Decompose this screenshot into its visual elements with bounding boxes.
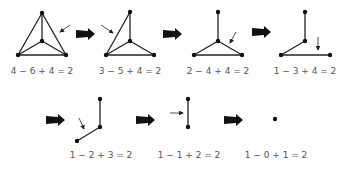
equation-stage-5: 1 − 2 + 3 = 2: [70, 150, 133, 160]
equation-stage-2: 3 − 5 + 4 = 2: [99, 66, 162, 76]
euler-reduction-diagram: [0, 0, 349, 169]
equation-stage-7: 1 − 0 + 1 = 2: [245, 150, 308, 160]
transition-arrow-icon: [46, 26, 271, 126]
graph-stage-3: [194, 12, 242, 55]
equation-stage-3: 2 − 4 + 4 = 2: [187, 66, 250, 76]
equation-stage-1: 4 − 6 + 4 = 2: [11, 66, 74, 76]
graph-stage-4: [281, 12, 330, 55]
graph-stage-2: [101, 12, 154, 55]
single-vertex: [273, 117, 277, 121]
graph-stage-1: [18, 13, 70, 55]
graph-stage-5: [77, 99, 100, 141]
equation-stage-4: 1 − 3 + 4 = 2: [274, 66, 337, 76]
equation-stage-6: 1 − 1 + 2 = 2: [158, 150, 221, 160]
graph-stage-6: [170, 99, 188, 127]
